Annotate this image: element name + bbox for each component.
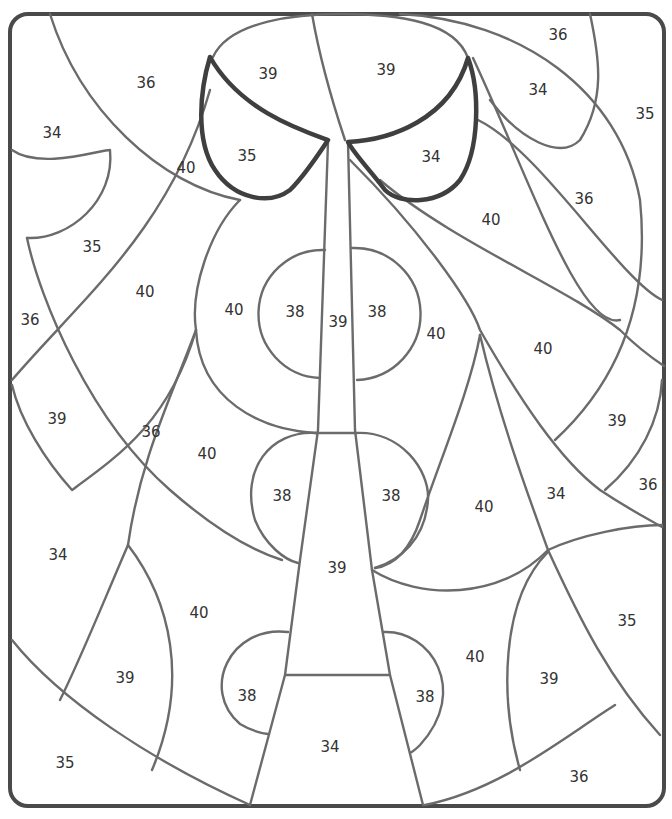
region-number-label[interactable]: 34 [42,124,61,142]
region-number-label[interactable]: 39 [328,313,347,331]
region-number-label[interactable]: 36 [548,26,567,44]
region-number-label[interactable]: 35 [617,612,636,630]
coloring-outline-drawing [0,0,672,819]
region-number-label[interactable]: 38 [272,487,291,505]
region-number-label[interactable]: 34 [48,546,67,564]
region-number-label[interactable]: 39 [539,670,558,688]
region-number-label[interactable]: 36 [574,190,593,208]
region-number-label[interactable]: 40 [189,604,208,622]
region-number-label[interactable]: 39 [607,412,626,430]
region-number-label[interactable]: 35 [82,238,101,256]
region-number-label[interactable]: 38 [415,688,434,706]
region-number-label[interactable]: 39 [258,65,277,83]
region-number-label[interactable]: 39 [115,669,134,687]
region-number-label[interactable]: 34 [320,738,339,756]
region-number-label[interactable]: 39 [327,559,346,577]
region-number-label[interactable]: 40 [197,445,216,463]
region-number-label[interactable]: 40 [533,340,552,358]
region-number-label[interactable]: 36 [569,768,588,786]
region-number-label[interactable]: 36 [136,74,155,92]
region-number-label[interactable]: 40 [481,211,500,229]
region-number-label[interactable]: 36 [141,423,160,441]
region-number-label[interactable]: 35 [55,754,74,772]
region-number-label[interactable]: 34 [421,148,440,166]
worksheet-frame [10,14,664,806]
region-number-label[interactable]: 36 [20,311,39,329]
region-number-label[interactable]: 40 [224,301,243,319]
region-number-label[interactable]: 39 [47,410,66,428]
region-number-label[interactable]: 35 [635,105,654,123]
region-number-label[interactable]: 40 [176,159,195,177]
region-number-label[interactable]: 38 [367,303,386,321]
region-number-label[interactable]: 38 [237,687,256,705]
region-number-label[interactable]: 38 [381,487,400,505]
region-number-label[interactable]: 40 [426,325,445,343]
region-number-label[interactable]: 39 [376,61,395,79]
region-number-label[interactable]: 36 [638,476,657,494]
region-number-label[interactable]: 40 [474,498,493,516]
region-number-label[interactable]: 40 [465,648,484,666]
region-number-label[interactable]: 34 [546,485,565,503]
region-number-label[interactable]: 34 [528,81,547,99]
region-number-label[interactable]: 40 [135,283,154,301]
region-number-label[interactable]: 38 [285,303,304,321]
region-number-label[interactable]: 35 [237,147,256,165]
